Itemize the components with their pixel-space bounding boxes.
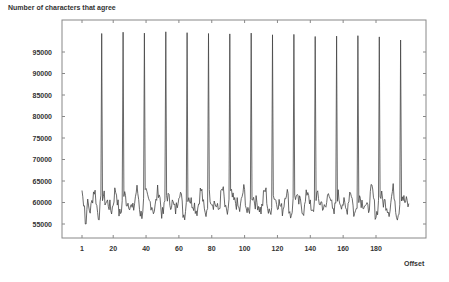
plot-frame xyxy=(62,20,426,238)
x-tick-label: 80 xyxy=(208,245,216,252)
y-tick-label: 90000 xyxy=(33,70,53,77)
x-tick-label: 100 xyxy=(239,245,251,252)
y-tick-label: 95000 xyxy=(33,49,53,56)
x-tick-label: 1 xyxy=(80,245,84,252)
y-tick-label: 85000 xyxy=(33,92,53,99)
x-tick-label: 40 xyxy=(142,245,150,252)
x-tick-label: 120 xyxy=(272,245,284,252)
x-tick-label: 140 xyxy=(304,245,316,252)
x-tick-label: 180 xyxy=(370,245,382,252)
y-tick-label: 75000 xyxy=(33,135,53,142)
y-tick-label: 55000 xyxy=(33,221,53,228)
y-tick-label: 70000 xyxy=(33,156,53,163)
line-chart: 5500060000650007000075000800008500090000… xyxy=(0,0,449,282)
x-tick-label: 20 xyxy=(109,245,117,252)
y-tick-label: 65000 xyxy=(33,178,53,185)
y-tick-label: 80000 xyxy=(33,113,53,120)
x-tick-label: 60 xyxy=(175,245,183,252)
agreement-line xyxy=(82,32,409,224)
y-tick-label: 60000 xyxy=(33,199,53,206)
x-tick-label: 160 xyxy=(337,245,349,252)
